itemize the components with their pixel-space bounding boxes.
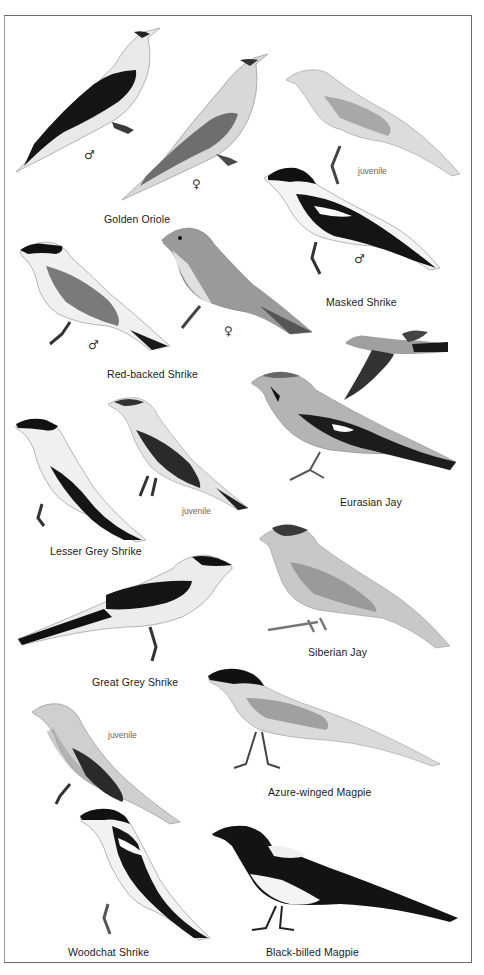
- juvenile-note: juvenile: [108, 730, 137, 740]
- great-grey-shrike-illustration: [16, 551, 236, 663]
- lesser-grey-shrike-juvenile-illustration: [106, 396, 250, 514]
- female-symbol: ♀: [192, 177, 201, 191]
- label-black-billed-magpie: Black-billed Magpie: [266, 946, 359, 958]
- eurasian-jay-perched-illustration: [250, 370, 460, 488]
- black-billed-magpie-illustration: [210, 824, 460, 936]
- label-azure-winged-magpie: Azure-winged Magpie: [268, 786, 371, 798]
- label-masked-shrike: Masked Shrike: [326, 296, 397, 308]
- azure-winged-magpie-illustration: [206, 668, 442, 774]
- siberian-jay-illustration: [258, 522, 452, 654]
- male-symbol: ♂: [88, 338, 99, 352]
- label-red-backed-shrike: Red-backed Shrike: [107, 368, 198, 380]
- juvenile-note: juvenile: [182, 506, 211, 516]
- label-woodchat-shrike: Woodchat Shrike: [68, 946, 149, 958]
- male-symbol: ♂: [354, 252, 365, 266]
- label-eurasian-jay: Eurasian Jay: [340, 496, 402, 508]
- label-great-grey-shrike: Great Grey Shrike: [92, 676, 178, 688]
- woodchat-shrike-illustration: [78, 808, 214, 942]
- female-symbol: ♀: [224, 324, 233, 338]
- red-backed-shrike-male-illustration: [18, 238, 172, 354]
- male-symbol: ♂: [84, 148, 95, 162]
- label-siberian-jay: Siberian Jay: [308, 646, 367, 658]
- red-backed-shrike-female-illustration: [160, 224, 314, 340]
